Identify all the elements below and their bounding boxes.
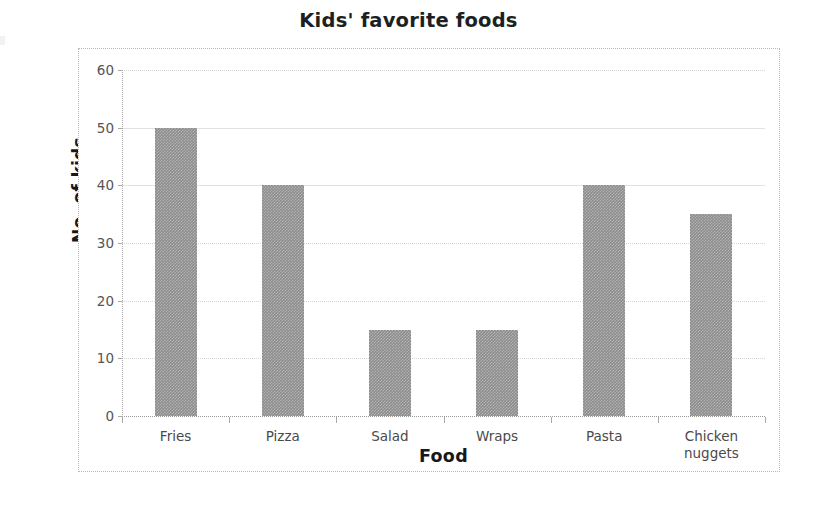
x-tick-label-salad: Salad — [336, 428, 443, 445]
x-tick-mark-0 — [122, 417, 123, 423]
x-tick-label-line: Pizza — [229, 428, 336, 445]
bar-chicken-nuggets — [690, 214, 732, 416]
x-tick-mark-5 — [658, 417, 659, 423]
gridline-60 — [122, 70, 765, 71]
y-axis-line — [122, 70, 123, 417]
x-tick-label-line: Chicken — [658, 428, 765, 445]
image-edge-artifact — [0, 36, 5, 45]
gridline-20 — [122, 301, 765, 302]
y-tick-label-50: 50 — [74, 120, 114, 136]
bar-salad — [369, 330, 411, 417]
y-tick-label-40: 40 — [74, 177, 114, 193]
x-tick-label-wraps: Wraps — [444, 428, 551, 445]
gridline-30 — [122, 243, 765, 244]
x-tick-mark-4 — [551, 417, 552, 423]
x-tick-mark-1 — [229, 417, 230, 423]
y-tick-label-30: 30 — [74, 235, 114, 251]
x-tick-mark-2 — [336, 417, 337, 423]
gridline-10 — [122, 358, 765, 359]
gridline-50 — [122, 128, 765, 129]
plot-area — [122, 70, 765, 416]
x-axis-title: Food — [122, 446, 765, 466]
gridline-40 — [122, 185, 765, 186]
y-axis-tick-labels: 0102030405060 — [72, 70, 114, 416]
x-tick-mark-6 — [765, 417, 766, 423]
chart-figure: Kids' favorite foods No. of kids 0102030… — [0, 0, 817, 510]
y-tick-label-10: 10 — [74, 350, 114, 366]
x-tick-label-fries: Fries — [122, 428, 229, 445]
y-tick-label-60: 60 — [74, 62, 114, 78]
bar-fries — [155, 128, 197, 416]
bar-pizza — [262, 185, 304, 416]
chart-title: Kids' favorite foods — [0, 9, 817, 32]
y-tick-label-0: 0 — [74, 408, 114, 424]
x-tick-label-pasta: Pasta — [551, 428, 658, 445]
x-tick-label-line: Fries — [122, 428, 229, 445]
x-tick-label-pizza: Pizza — [229, 428, 336, 445]
x-tick-label-line: Salad — [336, 428, 443, 445]
y-tick-label-20: 20 — [74, 293, 114, 309]
x-tick-label-line: Pasta — [551, 428, 658, 445]
x-tick-label-line: Wraps — [444, 428, 551, 445]
bar-wraps — [476, 330, 518, 417]
bar-pasta — [583, 185, 625, 416]
x-tick-mark-3 — [444, 417, 445, 423]
